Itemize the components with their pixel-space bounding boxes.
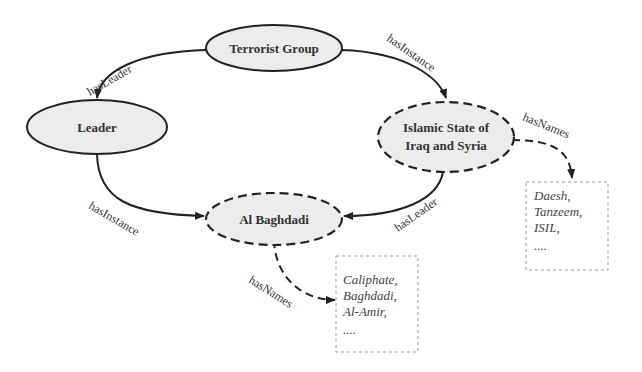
isis-name-item: Tanzeem, xyxy=(534,204,582,219)
node-baghdadi-label: Al Baghdadi xyxy=(239,212,309,227)
baghdadi-names-box: Caliphate, Baghdadi, Al-Amir, .... xyxy=(336,256,418,352)
edge-leader-to-baghdadi xyxy=(97,154,204,216)
node-baghdadi: Al Baghdadi xyxy=(206,193,342,245)
isis-names-box: Daesh, Tanzeem, ISIL, .... xyxy=(526,182,608,270)
node-leader-label: Leader xyxy=(77,120,117,135)
baghdadi-name-item: Caliphate, xyxy=(343,272,398,287)
baghdadi-name-item: Baghdadi, xyxy=(343,288,397,303)
edge-label-has-leader-2: hasLeader xyxy=(392,195,440,235)
edge-label-has-leader-1: hasLeader xyxy=(85,62,135,99)
ontology-diagram: Terrorist Group Leader Islamic State of … xyxy=(0,0,642,372)
isis-name-item: ISIL, xyxy=(533,220,560,235)
baghdadi-name-item: .... xyxy=(343,322,356,337)
isis-name-item: Daesh, xyxy=(533,188,570,203)
edge-label-has-instance-1: hasInstance xyxy=(384,31,438,75)
node-terrorist-group-label: Terrorist Group xyxy=(229,41,319,56)
baghdadi-name-item: Al-Amir, xyxy=(342,304,387,319)
node-isis-label-line1: Islamic State of xyxy=(403,120,490,135)
node-isis-label-line2: Iraq and Syria xyxy=(405,138,487,153)
node-terrorist-group: Terrorist Group xyxy=(206,25,342,71)
node-isis: Islamic State of Iraq and Syria xyxy=(378,102,514,172)
node-leader: Leader xyxy=(27,100,167,154)
isis-name-item: .... xyxy=(534,238,547,253)
edge-label-has-names-1: hasNames xyxy=(521,110,572,142)
edge-label-has-instance-2: hasInstance xyxy=(87,198,142,238)
edge-isis-names xyxy=(512,140,572,178)
